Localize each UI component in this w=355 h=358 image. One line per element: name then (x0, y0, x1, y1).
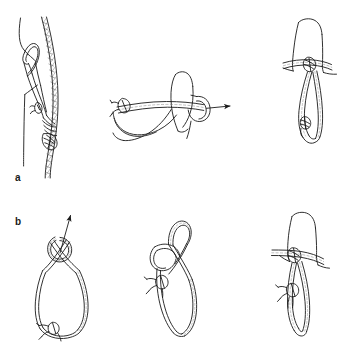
thumb-b3 (280, 212, 330, 268)
panel-b3 (272, 212, 330, 336)
pull-direction-arrow-b1[interactable] (60, 216, 71, 254)
hitch-knot-a3 (303, 57, 316, 71)
bight-b2 (168, 221, 191, 245)
row-label-b: b (15, 217, 21, 227)
panel-b1 (35, 216, 88, 342)
hanging-loop-b3 (287, 262, 309, 336)
hanging-loop-a3 (299, 71, 323, 143)
webbing-loop-b2 (157, 269, 197, 337)
rope-strand (42, 17, 59, 178)
panel-b2 (144, 221, 196, 337)
figure-root: a b (0, 0, 355, 358)
row-label-a: a (15, 173, 21, 183)
webbing-strands (25, 63, 47, 118)
panel-a3 (283, 19, 337, 143)
figure-artwork (0, 0, 355, 358)
panel-a2 (110, 72, 230, 141)
webbing-loop-b1 (35, 271, 88, 339)
buckle-knot-b2 (144, 275, 168, 297)
panel-a1 (19, 17, 58, 178)
